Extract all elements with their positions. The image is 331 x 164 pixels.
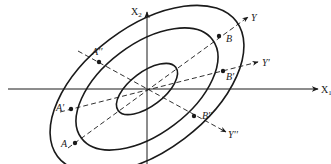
point-b (217, 34, 221, 38)
point-a (73, 141, 77, 145)
y-double-prime-axis-label: Y′′ (228, 129, 239, 140)
x1-axis-label: X1 (321, 84, 331, 97)
y-axis-label: Y (251, 12, 258, 23)
point-a-double-prime (97, 60, 101, 64)
y-prime-axis-label: Y′ (262, 57, 271, 68)
point-a-prime (69, 107, 73, 111)
point-b-label: B (226, 33, 232, 44)
point-a-prime-label: A′ (55, 102, 65, 113)
point-b-prime (221, 69, 225, 73)
point-b-prime-label: B′ (226, 71, 235, 82)
x2-axis-label: X2 (131, 6, 142, 19)
point-a-label: A (60, 138, 68, 149)
ellipse-diagram: X1 X2 Y Y′ Y′′ A B A′ B′ A′′ B′′ (0, 0, 331, 164)
point-b-double-prime (192, 114, 196, 118)
point-a-double-prime-label: A′′ (91, 46, 103, 57)
y-prime-axis-dashed (60, 62, 258, 112)
point-b-double-prime-label: B′′ (202, 110, 213, 121)
